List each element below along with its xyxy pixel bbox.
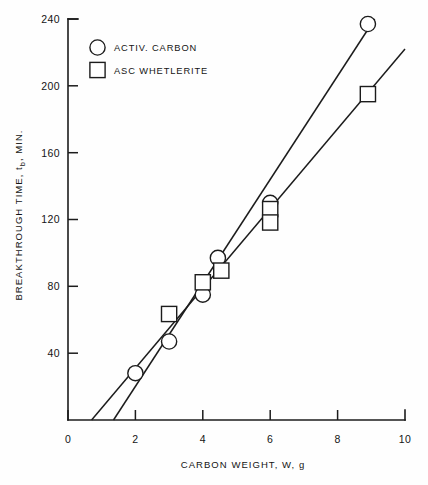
data-point-square — [195, 275, 210, 290]
y-tick-label-80: 80 — [48, 280, 60, 292]
data-point-square — [162, 306, 177, 321]
y-axis-title-main: BREAKTHROUGH TIME, t — [13, 166, 24, 300]
fit-line-activ-carbon — [114, 19, 375, 420]
x-tick-labels-group: 0 2 4 6 8 10 — [65, 433, 411, 445]
axes-group — [68, 19, 405, 420]
legend-label-activ-carbon: ACTIV. CARBON — [114, 43, 197, 53]
y-axis-title-group: BREAKTHROUGH TIME, tb, MIN. — [13, 129, 27, 300]
y-axis-title: BREAKTHROUGH TIME, tb, MIN. — [13, 129, 27, 300]
x-tick-label-0: 0 — [65, 433, 71, 445]
data-point-square — [360, 87, 375, 102]
x-axis-title: CARBON WEIGHT, W, g — [181, 459, 305, 470]
legend-square-icon — [90, 62, 105, 77]
legend-label-asc-whetlerite: ASC WHETLERITE — [114, 66, 208, 76]
data-point-square — [214, 263, 229, 278]
x-tick-label-4: 4 — [200, 433, 206, 445]
y-tick-label-240: 240 — [41, 13, 60, 25]
y-tick-label-120: 120 — [41, 213, 60, 225]
y-tick-labels-group: 40 80 120 160 200 240 — [41, 13, 60, 359]
chart-figure: 40 80 120 160 200 240 0 2 4 6 8 10 CARBO… — [0, 0, 428, 485]
legend: ACTIV. CARBON ASC WHETLERITE — [90, 40, 208, 78]
data-point-circle — [128, 366, 143, 381]
legend-circle-icon — [90, 40, 105, 55]
chart-svg: 40 80 120 160 200 240 0 2 4 6 8 10 CARBO… — [0, 0, 428, 485]
y-ticks-group — [68, 19, 78, 353]
x-tick-label-6: 6 — [267, 433, 273, 445]
x-tick-label-10: 10 — [399, 433, 411, 445]
y-tick-label-40: 40 — [48, 347, 60, 359]
data-point-circle — [162, 334, 177, 349]
fit-lines-group — [92, 19, 405, 420]
y-tick-label-200: 200 — [41, 80, 60, 92]
y-tick-label-160: 160 — [41, 147, 60, 159]
data-point-square — [263, 215, 278, 230]
x-tick-label-8: 8 — [334, 433, 340, 445]
data-point-circle — [360, 16, 375, 31]
x-ticks-group — [68, 410, 338, 420]
y-axis-title-tail: , MIN. — [13, 129, 24, 161]
x-tick-label-2: 2 — [132, 433, 138, 445]
fit-line-asc-whetlerite — [92, 49, 405, 420]
